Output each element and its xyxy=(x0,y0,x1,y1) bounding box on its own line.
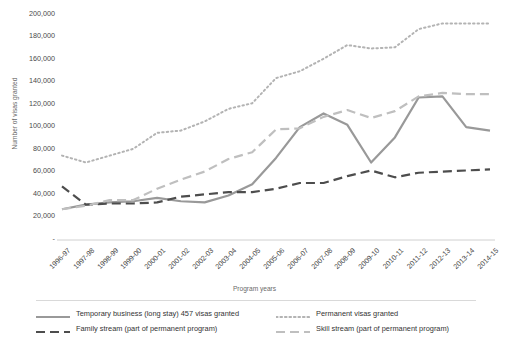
legend-row-1: Temporary business (long stay) 457 visas… xyxy=(36,306,476,320)
y-tick-label: 60,000 xyxy=(5,167,55,175)
legend-swatch-family-stream xyxy=(36,323,70,333)
legend-item-skill-stream: Skill stream (part of permanent program) xyxy=(276,321,449,335)
y-tick-label: 40,000 xyxy=(5,190,55,198)
y-tick-label: 20,000 xyxy=(5,212,55,220)
legend-divider xyxy=(36,300,476,301)
legend-row-2: Family stream (part of permanent program… xyxy=(36,321,476,335)
x-axis-title: Program years xyxy=(0,285,509,292)
legend-swatch-skill-stream xyxy=(276,323,310,333)
visa-grants-line-chart: 200,000 180,000 160,000 140,000 120,000 … xyxy=(0,0,509,341)
legend-item-family-stream: Family stream (part of permanent program… xyxy=(36,321,276,335)
series-canvas xyxy=(57,12,495,252)
y-tick-label: 180,000 xyxy=(5,32,55,40)
legend-label-family-stream: Family stream (part of permanent program… xyxy=(76,324,217,333)
legend-item-permanent-visas: Permanent visas granted xyxy=(276,306,398,320)
legend-swatch-temporary-business xyxy=(36,308,70,318)
legend-label-permanent-visas: Permanent visas granted xyxy=(316,309,398,318)
series-line-1 xyxy=(62,23,490,162)
series-line-2 xyxy=(62,169,490,204)
legend-label-temporary-business: Temporary business (long stay) 457 visas… xyxy=(76,309,239,318)
y-axis-title: Number of visas granted xyxy=(11,64,18,164)
legend-item-temporary-business: Temporary business (long stay) 457 visas… xyxy=(36,306,276,320)
plot-area xyxy=(57,12,495,240)
series-line-0 xyxy=(62,96,490,209)
y-tick-label: - xyxy=(5,235,55,243)
legend-label-skill-stream: Skill stream (part of permanent program) xyxy=(316,324,449,333)
y-tick-label: 160,000 xyxy=(5,55,55,63)
legend-swatch-permanent-visas xyxy=(276,308,310,318)
y-tick-label: 200,000 xyxy=(5,10,55,18)
chart-legend: Temporary business (long stay) 457 visas… xyxy=(36,300,476,334)
